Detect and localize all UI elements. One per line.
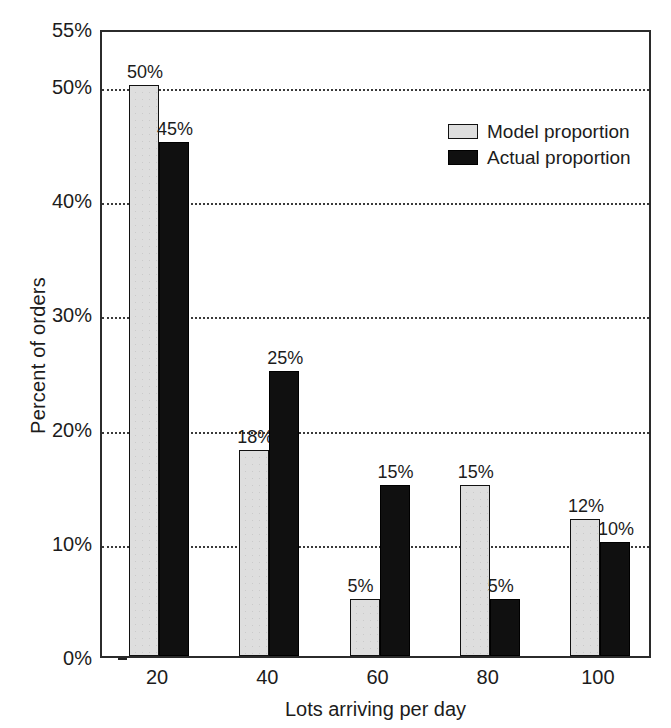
bar-model-proportion[interactable] [350,599,380,656]
legend-swatch-actual [448,150,478,165]
bar-value-label: 45% [157,120,193,138]
bar-value-label: 12% [568,497,604,515]
y-tick-label: 40% [26,191,92,211]
legend-item-label: Model proportion [487,122,630,141]
y-tick-label: 10% [26,534,92,554]
legend-item[interactable]: Model proportion [448,122,631,141]
y-axis-ticks: 0%10%20%30%40%50%55% [26,0,92,728]
bar-value-label: 5% [348,577,374,595]
legend-swatch-model [448,124,478,139]
bar-group: 5%15% [350,32,410,656]
bar-model-proportion[interactable] [239,450,269,656]
bar-actual-proportion[interactable] [600,542,630,656]
legend-item-label: Actual proportion [487,148,631,167]
bar-value-label: 15% [458,463,494,481]
bar-chart-figure: Percent of orders 0%10%20%30%40%50%55% 5… [0,0,671,728]
bar-group: 50%45% [129,32,189,656]
x-axis-title: Lots arriving per day [100,698,651,721]
y-tick-label: 20% [26,420,92,440]
x-tick-label: 60 [338,666,418,689]
bar-actual-proportion[interactable] [269,371,299,656]
y-tick-label: 50% [26,77,92,97]
y-tick-label: 0% [26,648,92,668]
x-tick-label: 100 [558,666,638,689]
bar-actual-proportion[interactable] [380,485,410,656]
y-tick-label: 55% [26,20,92,40]
bar-group: 18%25% [239,32,299,656]
bar-value-label: 15% [378,463,414,481]
bar-value-label: 25% [267,349,303,367]
bar-model-proportion[interactable] [570,519,600,656]
y-tick-mark [118,658,127,660]
bar-value-label: 10% [598,520,634,538]
bar-value-label: 50% [127,63,163,81]
legend-item[interactable]: Actual proportion [448,148,631,167]
x-tick-label: 20 [117,666,197,689]
chart-legend: Model proportionActual proportion [448,122,631,174]
bar-actual-proportion[interactable] [490,599,520,656]
x-tick-label: 80 [448,666,528,689]
bar-model-proportion[interactable] [129,85,159,656]
bar-model-proportion[interactable] [460,485,490,656]
bar-value-label: 18% [237,428,273,446]
x-tick-label: 40 [227,666,307,689]
bar-value-label: 5% [488,577,514,595]
y-tick-label: 30% [26,305,92,325]
bar-actual-proportion[interactable] [159,142,189,656]
